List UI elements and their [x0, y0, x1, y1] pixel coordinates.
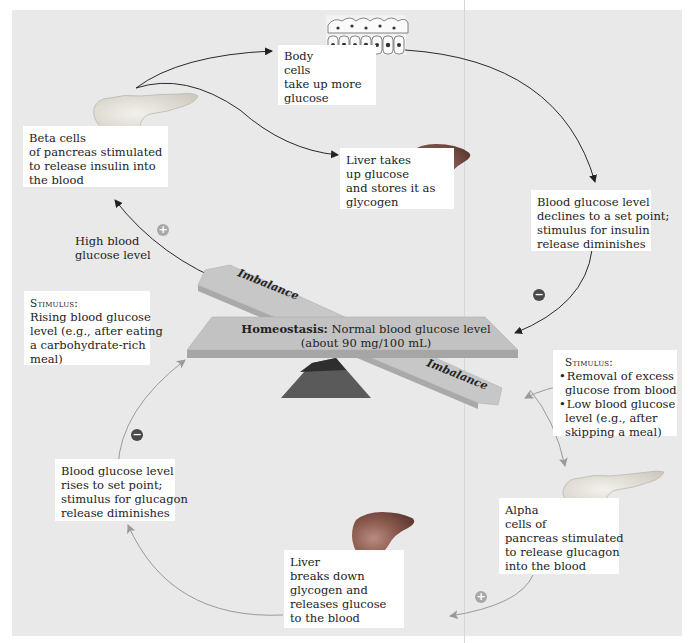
text-line: breaks down	[290, 569, 398, 583]
text-line: glycogen and	[290, 583, 398, 597]
stimulus-rising-box: Stimulus: Rising blood glucose level (e.…	[24, 291, 150, 365]
bullet-item: Low blood glucose	[559, 397, 671, 411]
stimulus-low-box: Stimulus: Removal of excess glucose from…	[553, 350, 677, 436]
stimulus-heading: Stimulus:	[559, 355, 671, 369]
plus-sign-icon: +	[475, 591, 487, 603]
text-line: to release glucagon	[505, 545, 613, 559]
homeostasis-label: Homeostasis: Normal blood glucose level …	[236, 322, 496, 350]
text-line: High blood	[75, 234, 151, 248]
text-line: Body	[284, 49, 370, 63]
homeostasis-value: (about 90 mg/100 mL)	[301, 336, 431, 350]
homeostasis-text: Normal blood glucose level	[328, 322, 491, 336]
text-line: into the blood	[505, 559, 613, 573]
text-line: skipping a meal)	[559, 425, 671, 439]
text-line: releases glucose	[290, 597, 398, 611]
text-line: Blood glucose level	[537, 195, 645, 209]
text-line: Liver	[290, 555, 398, 569]
text-line: and stores it as	[346, 181, 448, 195]
text-line: declines to a set point;	[537, 209, 645, 223]
text-line: Liver takes	[346, 153, 448, 167]
text-line: level (e.g., after	[559, 411, 671, 425]
text-line: glycogen	[346, 195, 448, 209]
minus-sign-icon: −	[533, 289, 545, 301]
text-line: to the blood	[290, 611, 398, 625]
beta-cells-box: Beta cells of pancreas stimulated to rel…	[23, 126, 168, 187]
bullet-item: Removal of excess	[559, 369, 671, 383]
text-line: glucose	[284, 91, 370, 105]
liver-takes-up-box: Liver takes up glucose and stores it as …	[340, 148, 454, 209]
text-line: release diminishes	[61, 506, 169, 520]
text-line: cells of	[505, 517, 613, 531]
liver-breaks-down-box: Liver breaks down glycogen and releases …	[284, 550, 404, 628]
text-line: a carbohydrate-rich	[30, 338, 144, 352]
minus-sign-icon: −	[131, 429, 143, 441]
stimulus-heading: Stimulus:	[30, 296, 144, 310]
text-line: cells	[284, 63, 370, 77]
text-line: to release insulin into	[29, 159, 162, 173]
text-line: Blood glucose level	[61, 464, 169, 478]
text-line: rises to set point;	[61, 478, 169, 492]
text-line: take up more	[284, 77, 370, 91]
glucose-rises-box: Blood glucose level rises to set point; …	[55, 459, 175, 521]
alpha-cells-box: Alpha cells of pancreas stimulated to re…	[499, 498, 619, 574]
text-line: stimulus for insulin	[537, 223, 645, 237]
body-cells-box: Body cells take up more glucose	[278, 45, 376, 105]
text-line: up glucose	[346, 167, 448, 181]
text-line: Alpha	[505, 503, 613, 517]
text-line: of pancreas stimulated	[29, 145, 162, 159]
high-blood-glucose-label: High blood glucose level	[75, 234, 151, 262]
homeostasis-heading: Homeostasis:	[241, 322, 328, 336]
text-line: Beta cells	[29, 131, 162, 145]
plus-sign-icon: +	[157, 224, 169, 236]
glucose-declines-box: Blood glucose level declines to a set po…	[531, 190, 651, 251]
text-line: release diminishes	[537, 237, 645, 251]
text-line: stimulus for glucagon	[61, 492, 169, 506]
text-line: level (e.g., after eating	[30, 324, 144, 338]
text-line: glucose level	[75, 248, 151, 262]
text-line: pancreas stimulated	[505, 531, 613, 545]
text-line: the blood	[29, 173, 162, 187]
text-line: glucose from blood	[559, 383, 671, 397]
text-line: meal)	[30, 352, 144, 366]
text-line: Rising blood glucose	[30, 310, 144, 324]
